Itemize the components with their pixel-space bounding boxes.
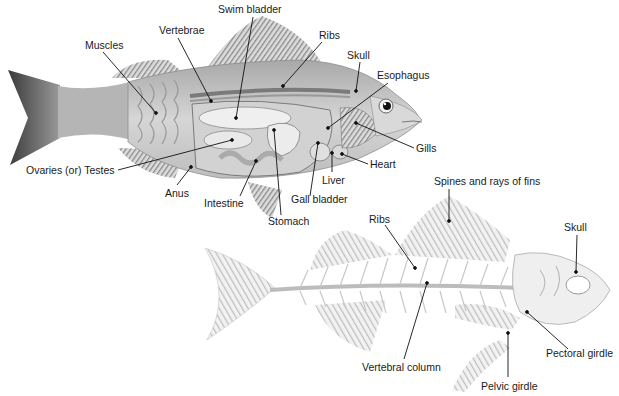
pointer-dot-gall-bladder xyxy=(317,142,320,145)
label-ribs: Ribs xyxy=(319,29,340,41)
pointer-dot-heart xyxy=(341,153,344,156)
label-heart: Heart xyxy=(370,158,396,170)
pointer-dot-intestine xyxy=(255,160,258,163)
label-anus: Anus xyxy=(165,187,189,199)
label-spines-rays: Spines and rays of fins xyxy=(434,175,540,187)
top-fish-anatomy xyxy=(8,16,422,218)
pointer-dot-vertebral-column xyxy=(426,282,429,285)
label-skull: Skull xyxy=(347,49,370,61)
label-vertebral-column: Vertebral column xyxy=(362,361,441,373)
label-muscles: Muscles xyxy=(85,39,124,51)
caudal-fin xyxy=(8,70,60,165)
fish-anatomy-diagram: Swim bladderVertebraeMusclesRibsSkullEso… xyxy=(0,0,619,396)
pointer-dot-ribs-skeleton xyxy=(414,267,417,270)
label-stomach: Stomach xyxy=(268,215,309,227)
pointer-dot-skull xyxy=(355,90,358,93)
label-ovaries-testes: Ovaries (or) Testes xyxy=(26,164,115,176)
pointer-dot-stomach xyxy=(273,129,276,132)
label-esophagus: Esophagus xyxy=(377,69,430,81)
pointer-dot-ribs xyxy=(282,85,285,88)
pointer-dot-esophagus xyxy=(327,127,330,130)
pointer-dot-pectoral-girdle xyxy=(526,311,529,314)
label-vertebrae: Vertebrae xyxy=(159,24,205,36)
pointer-dot-liver xyxy=(331,152,334,155)
label-liver: Liver xyxy=(322,174,345,186)
label-gall-bladder: Gall bladder xyxy=(291,193,348,205)
pointer-dot-ovaries-testes xyxy=(231,139,234,142)
pointer-dot-gills xyxy=(355,122,358,125)
pointer-dot-muscles xyxy=(155,112,158,115)
pointer-dot-vertebrae xyxy=(210,100,213,103)
label-pelvic-girdle: Pelvic girdle xyxy=(481,380,538,392)
label-skull-skeleton: Skull xyxy=(564,221,587,233)
label-intestine: Intestine xyxy=(204,197,244,209)
label-gills: Gills xyxy=(416,142,436,154)
pointer-dot-swim-bladder xyxy=(235,117,238,120)
leader-vertebral-column xyxy=(404,283,427,359)
pointer-dot-skull-skeleton xyxy=(575,271,578,274)
pointer-dot-pelvic-girdle xyxy=(507,332,510,335)
pointer-dot-anus xyxy=(190,166,193,169)
label-swim-bladder: Swim bladder xyxy=(218,3,282,15)
pointer-dot-spines-rays xyxy=(448,220,451,223)
label-ribs-skeleton: Ribs xyxy=(369,213,390,225)
label-pectoral-girdle: Pectoral girdle xyxy=(546,347,613,359)
